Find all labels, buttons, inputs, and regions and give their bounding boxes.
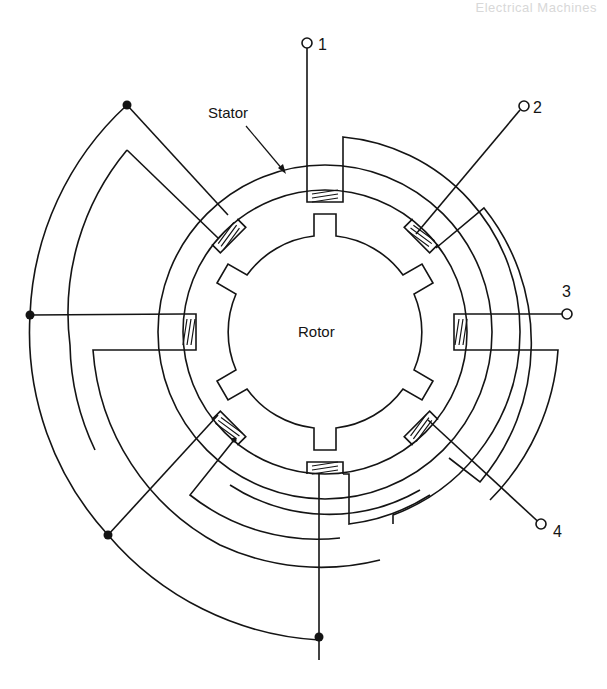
junction-dot — [104, 531, 113, 540]
junction-dot — [26, 311, 35, 320]
coil-bottom — [307, 462, 343, 474]
wire-top-left-inner-diag — [127, 150, 218, 238]
coil-top-left — [212, 219, 246, 253]
winding-diagram: 1 2 3 4 Stator Rotor — [0, 0, 607, 689]
wire-phase-4 — [428, 420, 545, 528]
rotor-label: Rotor — [298, 323, 335, 340]
terminal-3-label: 3 — [562, 283, 571, 300]
wire-left-horizontal — [30, 314, 380, 567]
wire-bottom-left-diag — [108, 415, 218, 535]
wire-phase-3 — [467, 314, 562, 500]
junction-dot — [315, 633, 324, 642]
stator-label: Stator — [208, 104, 248, 121]
coil-left — [183, 314, 196, 350]
terminal-2-label: 2 — [533, 99, 542, 116]
coil-right — [454, 314, 467, 350]
terminal-1-label: 1 — [318, 36, 327, 53]
junction-dot — [123, 101, 132, 110]
junction-dots — [26, 101, 324, 642]
terminal-1-icon — [302, 38, 312, 48]
coil-top — [307, 190, 343, 202]
wire-bottom-coil-right — [343, 474, 430, 524]
wire-left-outer — [29, 105, 319, 640]
coil-top-right — [404, 219, 438, 253]
winding-wires — [29, 48, 562, 660]
terminal-4-icon — [536, 519, 546, 529]
coil-bottom-right — [404, 411, 438, 445]
wire-phase-1 — [307, 48, 520, 524]
wire-phase-2 — [416, 110, 520, 234]
terminal-2-icon — [519, 101, 529, 111]
terminal-3-icon — [562, 309, 572, 319]
wire-top-left-inner — [68, 150, 127, 450]
junction-dot — [232, 438, 237, 443]
stator-pointer-arrow — [246, 126, 283, 170]
terminal-4-label: 4 — [553, 523, 562, 540]
